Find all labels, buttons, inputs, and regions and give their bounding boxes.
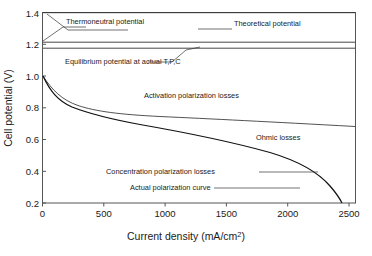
y-tick-label: 1.4 [26,8,39,19]
x-tick-label: 1500 [216,208,237,219]
y-tick-label: 1.2 [26,39,39,50]
y-tick-labels: 0.2 0.4 0.6 0.8 1.0 1.2 1.4 [26,8,39,209]
annotation-activation-polarization-losses: Activation polarization losses [144,91,239,100]
x-axis-title-base: Current density (mA/cm [127,230,238,242]
y-tick-label: 0.4 [26,166,39,177]
y-tick-label: 0.6 [26,134,39,145]
x-tick-label: 1000 [155,208,176,219]
annotation-ohmic-losses: Ohmic losses [256,133,301,142]
annotation-theoretical-potential: Theoretical potential [234,19,301,28]
leader-line-theoretical-left [43,27,86,41]
chart-svg: 0.2 0.4 0.6 0.8 1.0 1.2 1.4 0 500 1000 1… [0,0,372,256]
y-axis-title: Cell potential (V) [2,69,14,147]
annotation-concentration-polarization-losses: Concentration polarization losses [106,167,215,176]
x-tick-label: 0 [40,208,45,219]
x-axis-title: Current density (mA/cm2) [127,230,245,243]
activation-polarization-curve [43,76,355,127]
y-axis-ticks [43,13,47,204]
x-tick-label: 2500 [338,208,359,219]
annotation-actual-polarization-curve: Actual polarization curve [130,183,211,192]
y-tick-label: 0.8 [26,102,39,113]
annotation-equilibrium-potential: Equilibrium potential at actual T,P,C [65,57,181,66]
annotation-thermoneutral-potential: Thermoneutral potential [66,17,144,26]
y-tick-label: 1.0 [26,71,39,82]
x-axis-ticks [43,203,350,207]
x-tick-labels: 0 500 1000 1500 2000 2500 [40,208,360,219]
x-tick-label: 2000 [277,208,298,219]
x-tick-label: 500 [96,208,112,219]
polarization-curve-figure: 0.2 0.4 0.6 0.8 1.0 1.2 1.4 0 500 1000 1… [0,0,372,256]
y-tick-label: 0.2 [26,198,39,209]
x-axis-title-tail: ) [241,230,245,242]
